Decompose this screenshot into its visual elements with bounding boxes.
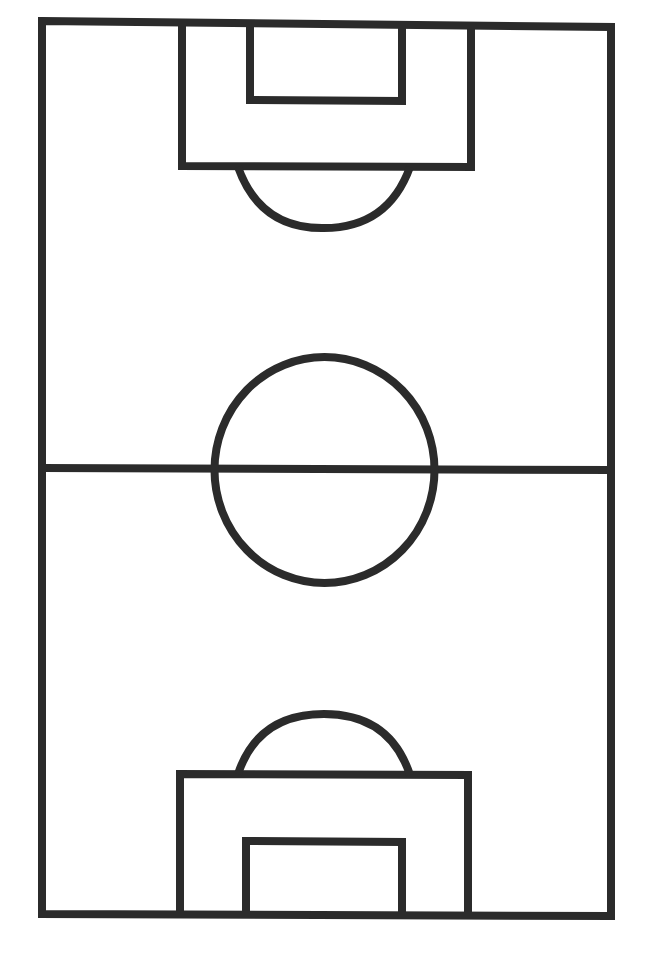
pitch-svg — [0, 0, 649, 963]
halfway-line — [42, 468, 611, 470]
background — [0, 0, 649, 963]
soccer-pitch-diagram — [0, 0, 649, 963]
